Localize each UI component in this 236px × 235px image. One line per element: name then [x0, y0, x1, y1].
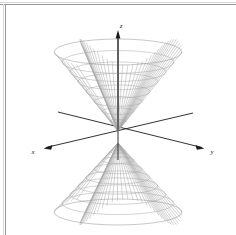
y-axis-arrowhead [196, 145, 205, 150]
z-axis-label: z [119, 22, 123, 30]
x-axis-line [46, 113, 193, 148]
y-axis-line [58, 112, 202, 148]
double-cone-figure: x y z [0, 0, 236, 235]
x-axis-arrowhead [44, 145, 53, 150]
y-axis-label: y [209, 148, 214, 156]
coordinate-axes [44, 30, 205, 160]
figure-container: x y z [0, 0, 236, 235]
x-axis-label: x [30, 148, 35, 156]
